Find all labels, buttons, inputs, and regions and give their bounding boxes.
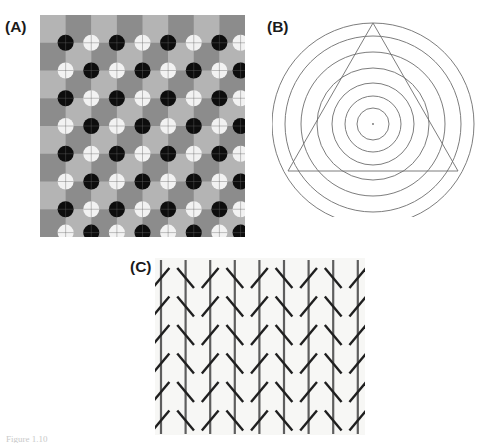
center-dot [372, 123, 374, 125]
concentric-circles [272, 23, 474, 217]
caption-stub: Figure 1.10 [6, 434, 110, 443]
figure-container: (A) (B) (C) Figure 1.10 [0, 0, 490, 447]
panel-a-scintillating-grid [40, 15, 245, 237]
panel-a-label: (A) [5, 18, 27, 36]
triangle-outline [288, 23, 458, 171]
center-fixation-dot [372, 123, 374, 125]
overlay-triangle [288, 23, 458, 171]
panel-c-label: (C) [130, 258, 152, 276]
panel-b-orbison-illusion [272, 12, 477, 217]
panel-c-zollner-illusion [155, 258, 365, 435]
